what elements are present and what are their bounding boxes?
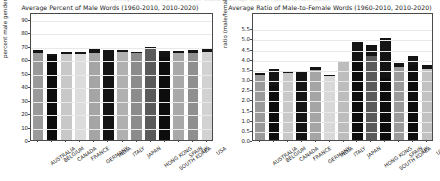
bar-series-1960-2010[interactable] (33, 53, 44, 140)
chart-panel-ratio-male-female: Average Ratio of Male-to-Female Words (1… (220, 0, 440, 181)
y-tick-mark (250, 50, 252, 51)
bar-series-2010-2020[interactable] (380, 38, 391, 78)
bar-series-1960-2010[interactable] (296, 72, 307, 140)
x-tick-mark (37, 140, 38, 142)
gridline (253, 71, 432, 72)
bar-group[interactable] (188, 13, 199, 140)
y-tick-label: 2.0 (239, 97, 250, 103)
y-tick-mark (250, 90, 252, 91)
y-tick-label: 50 (17, 71, 28, 77)
bar-group[interactable] (145, 13, 156, 140)
y-tick-mark (28, 47, 30, 48)
bar-series-2010-2020[interactable] (324, 75, 335, 76)
y-tick-mark (28, 101, 30, 102)
y-tick-label: 40 (17, 84, 28, 90)
bar-series-2010-2020[interactable] (394, 63, 405, 67)
bar-series-2010-2020[interactable] (61, 52, 72, 54)
bar-series-2010-2020[interactable] (103, 50, 114, 53)
x-tick-label-japan: JAPAN (366, 145, 382, 159)
bar-series-1960-2010[interactable] (408, 65, 419, 140)
gridline (253, 81, 432, 82)
bar-group[interactable] (159, 13, 170, 140)
bar-series-2010-2020[interactable] (422, 65, 433, 69)
chart-panel-percent-male-words: Average Percent of Male Words (1960-2010… (0, 0, 220, 181)
y-tick-label: 3.0 (239, 77, 250, 83)
gridline (31, 102, 212, 103)
x-tick-mark (79, 140, 80, 142)
x-tick-mark (192, 140, 193, 142)
bar-group[interactable] (75, 13, 86, 140)
bar-series-1960-2010[interactable] (422, 69, 433, 140)
y-tick-mark (250, 111, 252, 112)
y-tick-label: 30 (17, 98, 28, 104)
bar-series-1960-2010[interactable] (255, 75, 266, 140)
bar-series-2010-2020[interactable] (173, 51, 184, 53)
gridline (253, 112, 432, 113)
figure-root: Average Percent of Male Words per Countr… (0, 0, 440, 181)
bar-group[interactable] (89, 13, 100, 140)
x-tick-mark (65, 140, 66, 142)
x-tick-mark (412, 140, 413, 142)
y-tick-mark (28, 20, 30, 21)
gridline (253, 122, 432, 123)
bar-series-2010-2020[interactable] (310, 67, 321, 70)
y-tick-mark (250, 80, 252, 81)
bar-series-2010-2020[interactable] (159, 51, 170, 57)
chart-title-left: Average Percent of Male Words (1960-2010… (0, 4, 220, 11)
bar-group[interactable] (131, 13, 142, 140)
bar-group[interactable] (117, 13, 128, 140)
y-tick-mark (250, 29, 252, 30)
x-tick-mark (343, 140, 344, 142)
y-tick-mark (28, 114, 30, 115)
bar-series-2010-2020[interactable] (202, 48, 213, 51)
bar-series-2010-2020[interactable] (89, 49, 100, 53)
y-tick-label: 4.5 (239, 47, 250, 53)
bar-series-1960-2010[interactable] (366, 56, 377, 140)
bar-series-1960-2010[interactable] (103, 53, 114, 140)
plot-area-left (30, 13, 213, 141)
bar-series-1960-2010[interactable] (47, 56, 58, 140)
bar-series-left (31, 14, 212, 140)
y-tick-label: 60 (17, 57, 28, 63)
bar-series-2010-2020[interactable] (131, 52, 142, 53)
bar-series-2010-2020[interactable] (75, 52, 86, 53)
bar-series-1960-2010[interactable] (75, 54, 86, 140)
gridline (31, 48, 212, 49)
y-axis-label-right: ratio (male/female) (222, 0, 228, 58)
bar-group[interactable] (33, 13, 44, 140)
bar-group[interactable] (173, 13, 184, 140)
gridline (253, 51, 432, 52)
bar-series-1960-2010[interactable] (173, 53, 184, 140)
bar-series-1960-2010[interactable] (283, 73, 294, 140)
bar-series-1960-2010[interactable] (89, 53, 100, 140)
gridline (31, 115, 212, 116)
bar-series-1960-2010[interactable] (61, 54, 72, 140)
x-tick-mark (356, 140, 357, 142)
y-tick-label: 20 (17, 111, 28, 117)
bar-series-2010-2020[interactable] (33, 50, 44, 53)
bar-series-2010-2020[interactable] (47, 54, 58, 57)
y-tick-label: 1.0 (239, 118, 250, 124)
bar-group[interactable] (202, 13, 213, 140)
bar-group[interactable] (47, 13, 58, 140)
x-tick-mark (122, 140, 123, 142)
x-tick-mark (370, 140, 371, 142)
bar-series-1960-2010[interactable] (117, 52, 128, 140)
bar-series-1960-2010[interactable] (131, 53, 142, 140)
bar-group[interactable] (61, 13, 72, 140)
bar-series-2010-2020[interactable] (117, 50, 128, 53)
x-tick-mark (398, 140, 399, 142)
bar-series-1960-2010[interactable] (380, 78, 391, 140)
bar-series-2010-2020[interactable] (283, 72, 294, 73)
x-tick-mark (287, 140, 288, 142)
bar-series-1960-2010[interactable] (202, 52, 213, 140)
x-tick-label-usa: USA (435, 145, 440, 156)
gridline (253, 61, 432, 62)
bar-series-1960-2010[interactable] (188, 53, 199, 140)
bar-group[interactable] (103, 13, 114, 140)
bar-series-2010-2020[interactable] (255, 73, 266, 75)
bar-series-2010-2020[interactable] (188, 50, 199, 53)
bar-series-1960-2010[interactable] (394, 67, 405, 140)
bar-series-1960-2010[interactable] (324, 75, 335, 140)
x-tick-mark (93, 140, 94, 142)
